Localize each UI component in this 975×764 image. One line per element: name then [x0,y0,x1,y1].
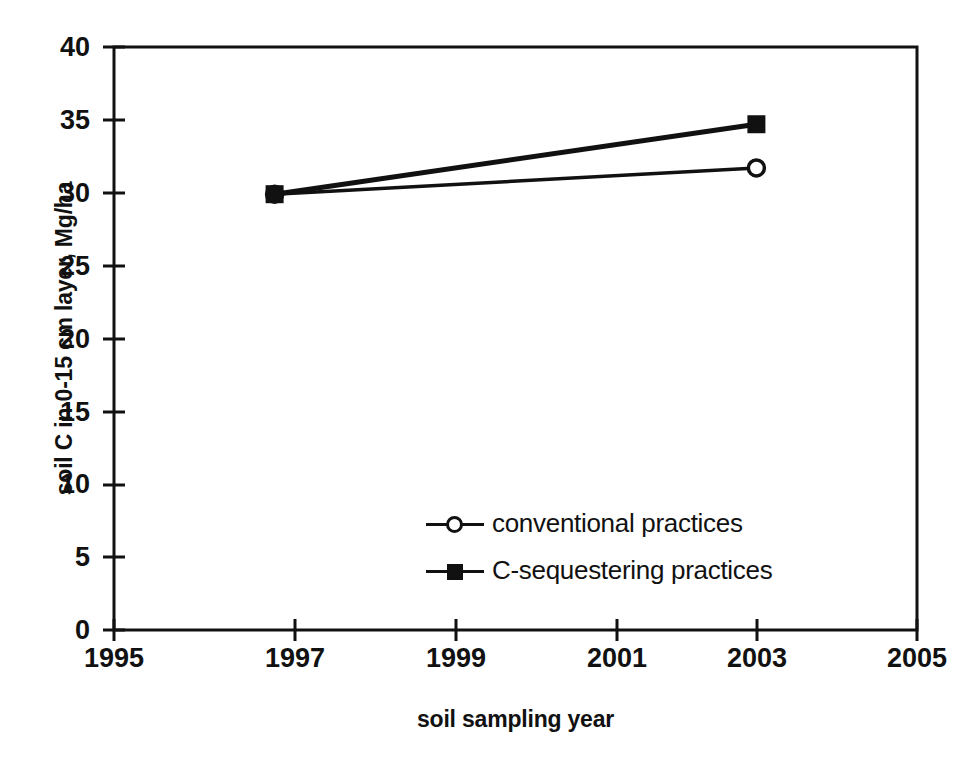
open-circle-marker-icon [748,160,764,176]
filled-square-marker-icon [747,115,765,133]
legend-item-c-sequestering-practices[interactable]: C-sequestering practices [424,547,824,594]
data-series-layer [266,115,766,203]
series-line [275,168,757,194]
filled-square-marker-icon [424,558,486,584]
series-line [275,124,757,194]
legend-label: conventional practices [486,508,743,539]
filled-square-marker-icon [266,185,284,203]
plot-canvas [0,0,975,764]
chart-figure: soil C in 0-15 cm layer, Mg/ha soil samp… [0,0,975,764]
legend-label: C-sequestering practices [486,555,772,586]
chart-legend: conventional practices C-sequestering pr… [424,500,824,594]
legend-item-conventional-practices[interactable]: conventional practices [424,500,824,547]
open-circle-marker-icon [424,511,486,537]
data-series [267,160,765,202]
